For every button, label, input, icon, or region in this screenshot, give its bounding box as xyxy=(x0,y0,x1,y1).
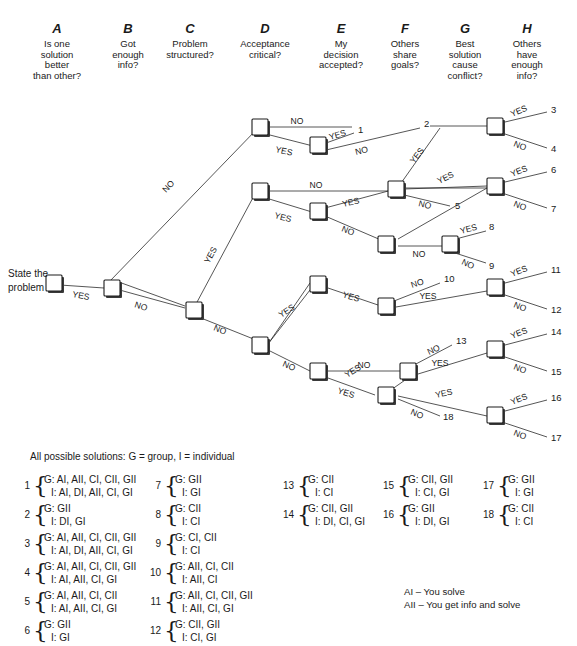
node-h4[interactable] xyxy=(487,341,503,357)
solution-lines: G: CII, GIII: CI, GI xyxy=(175,619,220,644)
solution-lines: G: AI, AII, CI, CII, GIII: AI, DI, AII, … xyxy=(44,532,136,557)
solution-group: G: CI, CII xyxy=(175,532,217,545)
node-h2[interactable] xyxy=(487,178,503,194)
outcome-number: 16 xyxy=(551,392,562,403)
solution-individual: I: DI, GI xyxy=(408,516,449,529)
outcome-number: 18 xyxy=(443,411,454,422)
edge-label-yes: YES xyxy=(509,391,529,407)
solution-number: 6 xyxy=(14,625,30,636)
root-caption: State the problem xyxy=(8,268,48,293)
solution-group: G: CII xyxy=(308,474,334,487)
edge-label-yes: YES xyxy=(509,325,529,341)
node-f2[interactable] xyxy=(388,181,404,197)
edge-label-yes: YES xyxy=(328,127,348,141)
edge-label-yes: YES xyxy=(509,163,529,179)
edge-label-yes: YES xyxy=(431,358,448,368)
node-f4[interactable] xyxy=(378,298,394,314)
solution-group: G: GII xyxy=(44,619,71,632)
edge-label-yes: YES xyxy=(434,387,453,400)
node-d2[interactable] xyxy=(252,183,268,199)
solution-lines: G: CIII: CI xyxy=(308,474,334,499)
outcome-number: 12 xyxy=(551,304,562,315)
node-f3[interactable] xyxy=(378,236,394,252)
edge-label-no: NO xyxy=(413,249,426,259)
solution-number: 2 xyxy=(14,509,30,520)
node-e1[interactable] xyxy=(310,137,326,153)
solution-group: G: CII xyxy=(508,503,534,516)
edge-label-no: NO xyxy=(160,178,176,194)
solution-number: 14 xyxy=(278,509,294,520)
node-d3[interactable] xyxy=(252,337,268,353)
node-root[interactable] xyxy=(46,275,62,291)
node-f5[interactable] xyxy=(400,363,416,379)
edge-label-no: NO xyxy=(310,180,323,190)
solution-lines: G: AII, CI, CII, GIII: AII, CI, GI xyxy=(175,590,253,615)
root-label-line2: problem xyxy=(8,282,44,293)
edge-label-yes: YES xyxy=(275,144,294,157)
solution-group: G: GII xyxy=(508,474,535,487)
solution-lines: G: GIII: GI xyxy=(44,619,71,644)
solution-individual: I: GI xyxy=(175,487,202,500)
solution-number: 7 xyxy=(145,480,161,491)
solution-lines: G: AI, AII, CI, CII, GIII: AI, AII, CI, … xyxy=(44,561,136,586)
node-h5[interactable] xyxy=(487,407,503,423)
edge-label-no: NO xyxy=(340,224,356,238)
solution-number: 1 xyxy=(14,480,30,491)
edge-label-yes: YES xyxy=(419,291,436,301)
solution-lines: G: AII, CI, CIII: AII, CI xyxy=(175,561,234,586)
edge-label-no: NO xyxy=(281,359,297,373)
solution-group: G: CII, GII xyxy=(308,503,365,516)
node-e2[interactable] xyxy=(310,203,326,219)
node-d1[interactable] xyxy=(252,119,268,135)
solution-number: 10 xyxy=(145,567,161,578)
solution-lines: G: CII, GIII: DI, CI, GI xyxy=(308,503,365,528)
solution-lines: G: CIII: CI xyxy=(508,503,534,528)
solution-number: 12 xyxy=(145,625,161,636)
node-e3[interactable] xyxy=(310,276,326,292)
tree-edges xyxy=(60,112,547,437)
edge-label-no: NO xyxy=(354,144,369,157)
outcome-number: 7 xyxy=(551,203,556,214)
solution-individual: I: CI xyxy=(308,487,334,500)
edge-label-yes: YES xyxy=(509,103,529,119)
node-h3[interactable] xyxy=(487,279,503,295)
solution-number: 9 xyxy=(145,538,161,549)
node-g3[interactable] xyxy=(442,236,458,252)
node-c[interactable] xyxy=(186,302,202,318)
solution-number: 18 xyxy=(478,509,494,520)
solution-number: 5 xyxy=(14,596,30,607)
node-b[interactable] xyxy=(104,280,120,296)
outcome-number: 5 xyxy=(455,200,460,211)
solution-lines: G: CII, GIII: CI, GI xyxy=(408,474,453,499)
solution-lines: G: GIII: GI xyxy=(508,474,535,499)
node-e4[interactable] xyxy=(310,363,326,379)
solution-lines: G: CI, CIII: CI xyxy=(175,532,217,557)
edge-label-yes: YES xyxy=(408,145,427,165)
solution-individual: I: CI xyxy=(175,516,201,529)
solution-number: 13 xyxy=(278,480,294,491)
outcome-number: 8 xyxy=(489,221,494,232)
edge-label-yes: YES xyxy=(72,289,91,302)
edge-label-yes: YES xyxy=(336,385,356,400)
solution-individual: I: AI, DI, AII, CI, GI xyxy=(44,545,136,558)
edge-label-no: NO xyxy=(418,198,433,211)
outcome-number: 17 xyxy=(551,432,562,443)
solution-group: G: GII xyxy=(175,474,202,487)
edge-label-yes: YES xyxy=(341,195,360,209)
solution-individual: I: GI xyxy=(44,632,71,645)
solution-individual: I: CI xyxy=(175,545,217,558)
node-f6[interactable] xyxy=(378,387,394,403)
method-key-line: AI – You solve xyxy=(404,585,520,598)
solution-individual: I: CI, GI xyxy=(175,632,220,645)
solution-group: G: AI, AII, CI, CII, GII xyxy=(44,532,136,545)
solution-individual: I: CI, GI xyxy=(408,487,453,500)
outcome-number: 6 xyxy=(551,164,556,175)
solution-group: G: CII, GII xyxy=(175,619,220,632)
node-h1[interactable] xyxy=(487,118,503,134)
solution-individual: I: AII, CI xyxy=(175,574,234,587)
solution-lines: G: AI, AII, CI, CII, GIII: AI, DI, AII, … xyxy=(44,474,136,499)
solution-individual: I: CI xyxy=(508,516,534,529)
solution-lines: G: CIII: CI xyxy=(175,503,201,528)
edge-label-yes: YES xyxy=(274,210,293,224)
